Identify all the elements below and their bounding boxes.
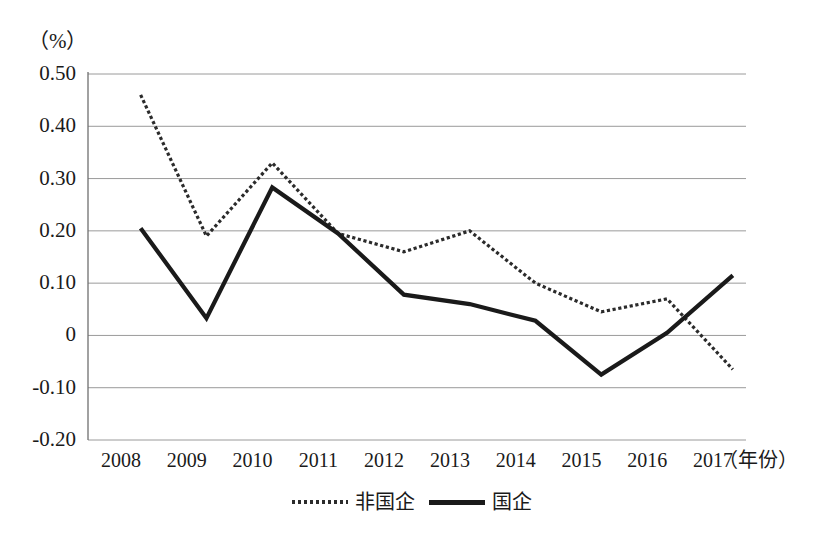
x-axis-tick-label: 2008 [101,450,141,470]
x-axis-tick-label: 2012 [364,450,404,470]
x-axis-tick-labels: （年份） 20082009201020112012201320142015201… [0,0,824,544]
x-axis-tick-label: 2017 [693,450,733,470]
x-axis-tick-label: 2016 [627,450,667,470]
legend-label: 非国企 [355,492,415,512]
x-axis-tick-label: 2009 [167,450,207,470]
chart-container: （%） 0.500.400.300.200.100-0.10-0.20 （年份）… [0,0,824,544]
x-axis-tick-label: 2013 [430,450,470,470]
legend-entry[interactable]: 非国企 [292,492,415,512]
x-axis-tick-label: 2010 [233,450,273,470]
chart-legend: 非国企国企 [0,492,824,512]
legend-swatch-icon [292,500,348,504]
x-axis-tick-label: 2014 [496,450,536,470]
x-axis-tick-label: 2011 [299,450,338,470]
legend-label: 国企 [492,492,532,512]
legend-entry[interactable]: 国企 [429,492,532,512]
legend-swatch-icon [429,500,485,505]
x-axis-tick-label: 2015 [562,450,602,470]
